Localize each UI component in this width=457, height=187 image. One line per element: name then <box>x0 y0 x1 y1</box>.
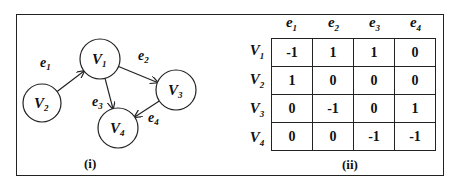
edge-label-e3: e3 <box>92 94 103 111</box>
row-header-v4: V4 <box>246 129 268 148</box>
node-v4: V4 <box>98 108 138 148</box>
edge-e1 <box>57 71 84 91</box>
incidence-matrix: -111010000-10100-1-1 <box>271 38 436 151</box>
matrix-cell: 0 <box>395 67 436 95</box>
edge-label-e4: e4 <box>148 110 159 127</box>
row-header-v2: V2 <box>246 71 268 90</box>
column-header-e4: e4 <box>395 14 436 33</box>
row-header-v1: V1 <box>246 42 268 61</box>
node-v1: V1 <box>80 39 120 79</box>
matrix-cell: 0 <box>313 67 354 95</box>
matrix-row: 1000 <box>272 67 436 95</box>
matrix-cell: 0 <box>272 123 313 151</box>
matrix-row: -1110 <box>272 39 436 67</box>
panel-label-matrix: (ii) <box>342 157 358 173</box>
column-header-e2: e2 <box>313 14 354 33</box>
matrix-row: 0-101 <box>272 95 436 123</box>
matrix-cell: 1 <box>272 67 313 95</box>
matrix-cell: 0 <box>354 95 395 123</box>
matrix-cell: 1 <box>354 39 395 67</box>
matrix-cell: -1 <box>272 39 313 67</box>
column-header-e1: e1 <box>271 14 312 33</box>
matrix-cell: 1 <box>395 95 436 123</box>
matrix-cell: 0 <box>272 95 313 123</box>
edge-e4 <box>135 101 160 117</box>
matrix-cell: 0 <box>395 39 436 67</box>
node-v2: V2 <box>23 84 61 122</box>
matrix-cell: -1 <box>354 123 395 151</box>
edge-label-e1: e1 <box>40 55 51 72</box>
panel-label-graph: (i) <box>84 156 96 172</box>
matrix-cell: -1 <box>395 123 436 151</box>
row-header-v3: V3 <box>246 100 268 119</box>
matrix-row: 00-1-1 <box>272 123 436 151</box>
matrix-cell: 0 <box>313 123 354 151</box>
column-header-e3: e3 <box>354 14 395 33</box>
node-v3: V3 <box>156 70 196 110</box>
matrix-cell: 1 <box>313 39 354 67</box>
edge-e2 <box>119 67 158 83</box>
edge-label-e2: e2 <box>138 48 149 65</box>
matrix-cell: -1 <box>313 95 354 123</box>
edge-e3 <box>105 78 113 108</box>
matrix-cell: 0 <box>354 67 395 95</box>
